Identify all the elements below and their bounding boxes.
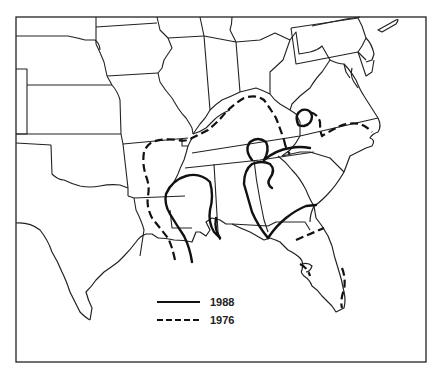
- map-canvas: 1988 1976: [0, 0, 441, 374]
- legend-label-1976: 1976: [210, 314, 234, 326]
- legend: 1988 1976: [157, 296, 234, 326]
- state-borders: [16, 17, 398, 320]
- line-1988: [166, 110, 317, 262]
- map-figure: 1988 1976: [0, 0, 441, 374]
- legend-label-1988: 1988: [210, 296, 234, 308]
- line-1976: [143, 96, 372, 308]
- map-frame-border: [16, 17, 426, 362]
